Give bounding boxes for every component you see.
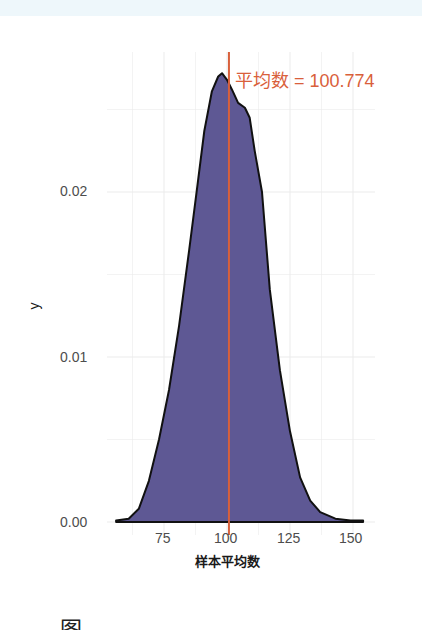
figure-caption: 图 [60,617,390,630]
x-tick-75: 75 [155,530,171,546]
x-tick-100: 100 [214,530,237,546]
density-chart: 0.00 0.01 0.02 75 100 125 150 y 样本平均数 平均… [0,0,422,600]
x-axis-label: 样本平均数 [0,551,422,570]
y-tick-0: 0.00 [60,514,87,530]
density-area [116,73,363,522]
y-tick-1: 0.01 [60,349,87,365]
mean-annotation: 平均数 = 100.774 [235,66,375,92]
x-tick-125: 125 [277,530,300,546]
x-tick-150: 150 [339,530,362,546]
y-tick-2: 0.02 [60,183,87,199]
y-axis-label: y [26,303,42,310]
